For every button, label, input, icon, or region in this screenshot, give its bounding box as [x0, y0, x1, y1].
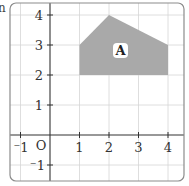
x-label-2: 2 — [105, 140, 113, 155]
origin-label: O — [36, 138, 47, 153]
y-label-3: 3 — [35, 38, 43, 53]
x-label-neg1: ⁻1 — [13, 140, 28, 155]
x-label-1: 1 — [75, 140, 83, 155]
y-label-neg1: ⁻1 — [30, 158, 45, 173]
x-label-4: 4 — [164, 140, 172, 155]
y-label-2: 2 — [35, 68, 43, 83]
x-label-3: 3 — [134, 140, 142, 155]
x-axis-labels: ⁻1 O 1 2 3 4 — [13, 138, 172, 155]
coordinate-grid-diagram: n A 4 3 2 — [0, 0, 189, 186]
y-label-4: 4 — [35, 8, 43, 23]
clipped-text: n — [0, 1, 6, 15]
shape-label-a: A — [113, 43, 128, 58]
y-label-1: 1 — [35, 98, 43, 113]
label-text: A — [114, 43, 126, 58]
